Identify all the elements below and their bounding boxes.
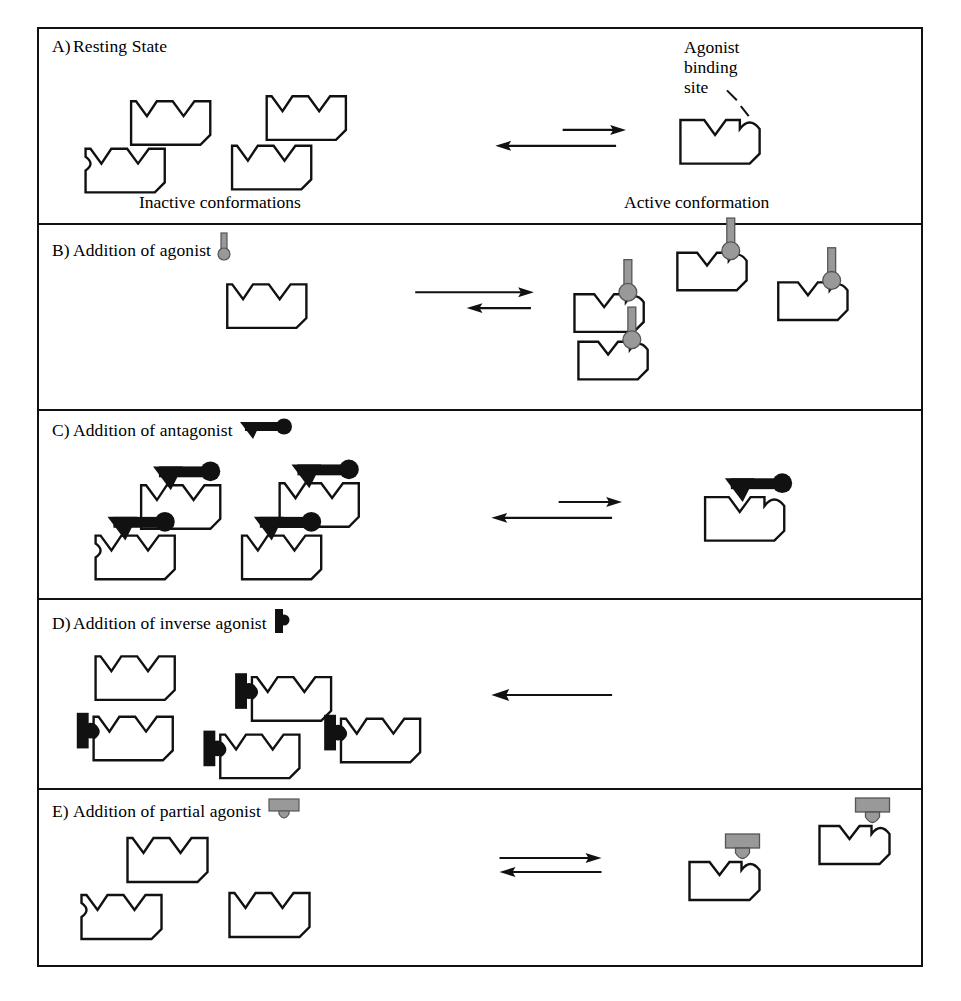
receptor-inverse-agonist-bound [77, 713, 173, 760]
receptor-active-antagonist-bound [705, 473, 792, 540]
partial-agonist-icon [726, 834, 760, 859]
panel-d-addition-of-inverse-agonist: D)Addition of inverse agonist [39, 600, 921, 790]
receptor-antagonist-bound [242, 512, 321, 579]
panel-c-stage [39, 411, 921, 598]
figure-frame: A)Resting State Agonist binding site [37, 27, 923, 967]
partial-agonist-icon [856, 798, 890, 823]
receptor-inactive [86, 149, 165, 193]
panel-b-addition-of-agonist: B)Addition of agonist [39, 225, 921, 411]
receptor-inactive [227, 284, 306, 328]
panel-e-stage [39, 790, 921, 964]
equilibrium-arrows-panel-a [495, 125, 626, 151]
panel-a-resting-state: A)Resting State Agonist binding site [39, 29, 921, 225]
agonist-icon [619, 260, 637, 302]
receptor-inverse-agonist-bound [235, 673, 331, 720]
receptor-inactive [232, 146, 311, 190]
panel-a-right-caption: Active conformation [624, 192, 769, 213]
receptor-inactive [267, 96, 346, 140]
receptor-active-agonist-bound [778, 248, 847, 320]
receptor-active-partial-agonist-bound [690, 834, 760, 900]
receptor-inactive [128, 838, 208, 882]
equilibrium-arrows-panel-b [415, 287, 534, 313]
receptor-inactive [82, 895, 162, 939]
receptor-active [680, 120, 759, 164]
receptor-active-partial-agonist-bound [820, 798, 890, 864]
equilibrium-arrows-panel-c [491, 497, 622, 523]
receptor-antagonist-bound [96, 512, 175, 579]
receptor-inverse-agonist-bound [324, 715, 420, 762]
panel-b-stage [39, 225, 921, 409]
panel-e-addition-of-partial-agonist: E)Addition of partial agonist [39, 790, 921, 964]
equilibrium-arrow-panel-d [491, 689, 612, 701]
receptor-inverse-agonist-bound [203, 731, 299, 778]
agonist-icon [722, 218, 740, 260]
panel-c-addition-of-antagonist: C)Addition of antagonist [39, 411, 921, 600]
panel-a-left-caption: Inactive conformations [139, 192, 301, 213]
callout-leader-line [727, 90, 749, 116]
receptor-inactive [131, 101, 210, 145]
panel-d-stage [39, 600, 921, 788]
receptor-inactive [96, 656, 175, 700]
agonist-icon [823, 248, 841, 290]
receptor-inactive [230, 893, 310, 937]
equilibrium-arrows-panel-e [500, 853, 602, 877]
receptor-active-agonist-bound [677, 218, 746, 290]
